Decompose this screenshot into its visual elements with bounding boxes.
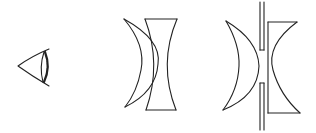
- biconcave-lens-icon: [145, 19, 177, 110]
- aperture-stop-icon: [260, 2, 264, 130]
- eye-icon: [18, 49, 49, 86]
- plano-concave-lens-icon: [268, 22, 300, 113]
- meniscus-lens-icon-2: [223, 21, 259, 110]
- lens-diagram: Eye Meniscus lens with biconcave lens Me…: [0, 0, 316, 133]
